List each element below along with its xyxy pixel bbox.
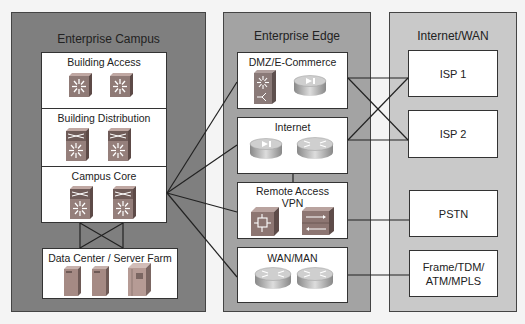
frame-tdm-atm-mpls-label: Frame/TDM/ ATM/MPLS [410, 251, 497, 296]
building-distribution-title: Building Distribution [41, 112, 167, 124]
router-icon [296, 267, 334, 290]
dmz-ecommerce-title: DMZ/E-Commerce [238, 56, 347, 68]
multilayer-switch-icon [108, 72, 134, 98]
enterprise-edge-title: Enterprise Edge [224, 29, 370, 43]
remote-access-vpn-title-line1: Remote Access [238, 185, 347, 197]
pstn-label: PSTN [410, 191, 497, 236]
firewall-router-icon [293, 75, 327, 97]
pstn-module: PSTN [409, 190, 498, 237]
router-icon [254, 267, 292, 290]
campus-core-module: Campus Core [41, 166, 167, 223]
enterprise-campus-title: Enterprise Campus [12, 32, 205, 46]
pix-firewall-icon [301, 207, 335, 235]
vpn-concentrator-icon [250, 207, 280, 237]
building-distribution-module: Building Distribution [41, 108, 167, 166]
router-icon [296, 137, 334, 160]
isp2-label: ISP 2 [409, 111, 497, 157]
internet-wan-title: Internet/WAN [390, 29, 516, 43]
multilayer-switch-icon [67, 72, 93, 98]
dmz-ecommerce-module: DMZ/E-Commerce [237, 52, 348, 109]
internet-module: Internet [237, 117, 348, 174]
isp1-module: ISP 1 [408, 50, 498, 97]
isp1-label: ISP 1 [409, 51, 497, 96]
campus-core-title: Campus Core [41, 170, 167, 182]
wan-man-module: WAN/MAN [237, 247, 348, 303]
content-switch-icon [253, 70, 277, 104]
layer3-switch-icon [111, 185, 137, 219]
building-access-module: Building Access [41, 52, 167, 108]
frame-tdm-atm-mpls-module: Frame/TDM/ ATM/MPLS [409, 250, 498, 297]
internet-title: Internet [238, 121, 347, 133]
isp2-module: ISP 2 [408, 110, 498, 158]
data-center-module: Data Center / Server Farm [42, 248, 178, 299]
mainframe-server-icon [127, 263, 151, 296]
server-icon [91, 266, 109, 296]
firewall-router-icon [249, 138, 283, 160]
layer3-switch-icon [64, 127, 90, 161]
wan-man-title: WAN/MAN [238, 252, 347, 264]
remote-access-vpn-module: Remote Access VPN [237, 182, 348, 239]
data-center-title: Data Center / Server Farm [43, 252, 177, 264]
building-access-title: Building Access [41, 56, 167, 68]
layer3-switch-icon [106, 127, 132, 161]
server-icon [63, 266, 81, 296]
layer3-switch-icon [68, 185, 94, 219]
